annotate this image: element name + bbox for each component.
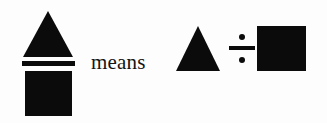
square-icon [25,71,72,116]
divisor-square [257,26,306,71]
division-bar [229,46,255,50]
square-icon [257,26,306,71]
division-dot-bottom [239,57,245,63]
fraction-numerator [23,11,73,57]
division-expression [168,0,327,123]
triangle-icon [23,11,73,57]
fraction-expression [0,0,90,123]
triangle-icon [176,26,220,71]
figure-canvas: means [0,0,327,123]
division-dot-top [239,34,245,40]
division-sign-icon [228,30,256,68]
fraction-denominator [25,71,72,116]
dividend-triangle [176,26,220,71]
means-label: means [91,50,163,74]
fraction-bar-icon [22,61,75,66]
